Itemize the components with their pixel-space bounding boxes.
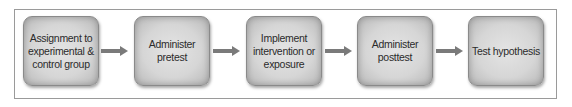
step-posttest: Administer posttest bbox=[357, 16, 433, 86]
step-label: Assignment to experimental & control gro… bbox=[27, 32, 95, 71]
step-label: Administer pretest bbox=[138, 38, 206, 64]
step-pretest: Administer pretest bbox=[134, 16, 210, 86]
step-intervention: Implement intervention or exposure bbox=[246, 16, 322, 86]
step-label: Administer posttest bbox=[361, 38, 429, 64]
arrow-1 bbox=[101, 46, 128, 56]
step-label: Implement intervention or exposure bbox=[250, 32, 318, 71]
arrow-3 bbox=[325, 46, 352, 56]
arrow-2 bbox=[213, 46, 240, 56]
step-label: Test hypothesis bbox=[472, 45, 540, 58]
arrow-4 bbox=[436, 46, 463, 56]
step-assignment: Assignment to experimental & control gro… bbox=[23, 16, 99, 86]
step-test-hypothesis: Test hypothesis bbox=[468, 16, 544, 86]
